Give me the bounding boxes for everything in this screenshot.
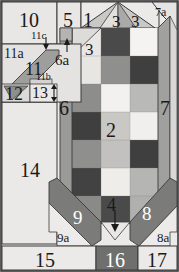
grid-cell-r4c3 <box>130 112 158 140</box>
label-7: 7 <box>160 98 170 118</box>
label-8a: 8a <box>157 231 169 244</box>
grid-cell-r3c2 <box>101 84 130 112</box>
figure-canvas: 10 5 1 3 3 7a 3 11c 11a 11 11b 12 13 6a … <box>0 0 179 272</box>
label-3-right: 3 <box>131 13 140 30</box>
label-16: 16 <box>105 250 125 270</box>
label-15: 15 <box>35 250 55 270</box>
label-14: 14 <box>20 160 40 180</box>
grid-cell-r5c3 <box>130 140 158 168</box>
label-2: 2 <box>106 120 116 140</box>
label-11b: 11b <box>36 72 51 82</box>
grid-cell-r5c2 <box>101 140 130 168</box>
label-11c: 11c <box>31 30 46 41</box>
label-10: 10 <box>19 10 39 30</box>
label-13: 13 <box>32 85 48 101</box>
label-17: 17 <box>147 250 167 270</box>
label-8: 8 <box>142 204 152 223</box>
label-9a: 9a <box>57 231 69 244</box>
label-6a: 6a <box>55 53 69 68</box>
grid-cell-r6c1 <box>72 168 101 196</box>
label-12: 12 <box>5 85 23 103</box>
grid-cell-r2c2 <box>101 56 130 84</box>
label-9: 9 <box>73 208 83 227</box>
grid-cell-r1c2 <box>101 28 130 56</box>
grid-cell-r5c1 <box>72 140 101 168</box>
label-6: 6 <box>59 98 69 118</box>
label-7a: 7a <box>155 6 166 18</box>
grid-cell-r6c2 <box>101 168 130 196</box>
grid-cell-r2c3 <box>130 56 158 84</box>
grid-cell-r3c3 <box>130 84 158 112</box>
grid-cell-r6c3 <box>130 168 158 196</box>
grid-cell-r4c1 <box>72 112 101 140</box>
label-5: 5 <box>63 10 73 30</box>
label-3-grid: 3 <box>85 41 94 58</box>
label-4: 4 <box>107 196 116 214</box>
label-11a: 11a <box>4 47 24 61</box>
label-3-left: 3 <box>112 13 121 30</box>
grid-cell-r1c3 <box>130 28 158 56</box>
label-1: 1 <box>83 10 93 30</box>
